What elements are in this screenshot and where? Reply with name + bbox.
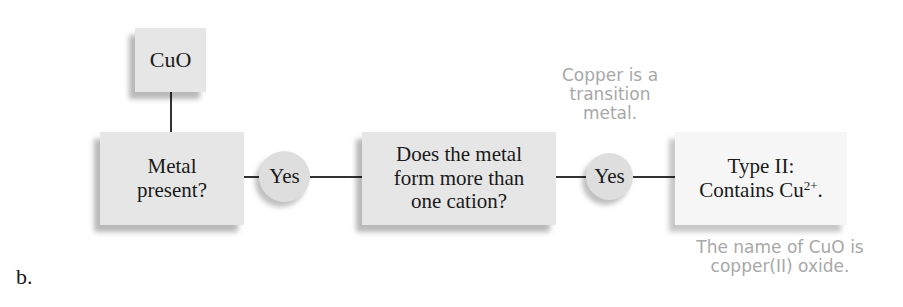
connector-cuo-to-metal <box>170 92 172 132</box>
metal-present-line2: present? <box>137 179 207 203</box>
transition-metal-note: Copper is a transition metal. <box>545 66 675 123</box>
yes-label-2: Yes <box>594 164 625 189</box>
result-line1: Type II: <box>699 155 823 179</box>
result-line2: Contains Cu2+. <box>699 179 823 203</box>
connector-yes2-to-result <box>633 176 675 178</box>
cation-question-line2: form more than <box>394 167 525 191</box>
compound-formula: CuO <box>150 48 192 73</box>
connector-metal-to-yes1 <box>244 176 259 178</box>
metal-present-line1: Metal <box>137 155 207 179</box>
yes-circle-2: Yes <box>586 153 633 200</box>
connector-yes1-to-cation <box>310 176 362 178</box>
yes-label-1: Yes <box>269 164 300 189</box>
figure-label: b. <box>16 264 33 290</box>
charge-superscript: 2+ <box>804 177 818 192</box>
yes-circle-1: Yes <box>259 151 310 202</box>
compound-name-note: The name of CuO is copper(II) oxide. <box>660 238 900 276</box>
compound-box: CuO <box>135 28 206 92</box>
result-box: Type II: Contains Cu2+. <box>675 132 847 225</box>
metal-present-box: Metal present? <box>100 132 244 225</box>
flowchart-diagram: CuO Metal present? Yes Does the metal fo… <box>0 0 903 307</box>
cation-question-line1: Does the metal <box>394 143 525 167</box>
cation-question-line3: one cation? <box>394 190 525 214</box>
multiple-cation-box: Does the metal form more than one cation… <box>362 132 556 225</box>
connector-cation-to-yes2 <box>556 176 586 178</box>
